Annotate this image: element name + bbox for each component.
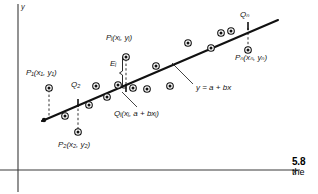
residual-label-ei: Eᵢ xyxy=(110,60,116,68)
point-label-q2: Q₂ xyxy=(71,81,80,89)
point-label-pi: Pᵢ(xᵢ, yᵢ) xyxy=(106,34,132,42)
data-point xyxy=(208,45,215,52)
point-label-qi: Qᵢ(xᵢ, a + bxᵢ) xyxy=(114,110,159,118)
point-label-p2: P₂(x₂, y₂) xyxy=(58,141,90,149)
point-label-p1: P₁(x₁, y₁) xyxy=(26,69,57,77)
point-label-qn: Qₙ xyxy=(240,11,249,19)
data-point xyxy=(185,40,192,47)
data-point xyxy=(93,83,100,90)
data-point xyxy=(130,85,137,92)
page-marker: 5.8 the xyxy=(292,157,318,177)
point-label-pn: Pₙ(xₙ, yₙ) xyxy=(235,54,267,62)
data-point xyxy=(42,118,46,122)
data-point xyxy=(75,129,82,136)
data-point xyxy=(123,54,130,61)
data-point xyxy=(144,86,151,93)
data-point xyxy=(228,28,235,35)
line-equation-label: y = a + bx xyxy=(196,84,231,92)
data-point xyxy=(153,63,160,70)
leader-line-equation xyxy=(172,63,193,84)
regression-diagram-svg xyxy=(0,0,318,194)
data-point xyxy=(46,85,53,92)
leader-line-qi xyxy=(122,92,137,107)
y-axis-label: y xyxy=(21,2,25,11)
data-point xyxy=(104,94,111,101)
page-marker-number: 5.8 xyxy=(292,157,318,168)
page-marker-word: the xyxy=(292,168,318,177)
data-point xyxy=(218,30,225,37)
data-point xyxy=(167,83,174,90)
data-point xyxy=(86,102,93,109)
data-point xyxy=(115,82,122,89)
data-point xyxy=(62,113,69,120)
